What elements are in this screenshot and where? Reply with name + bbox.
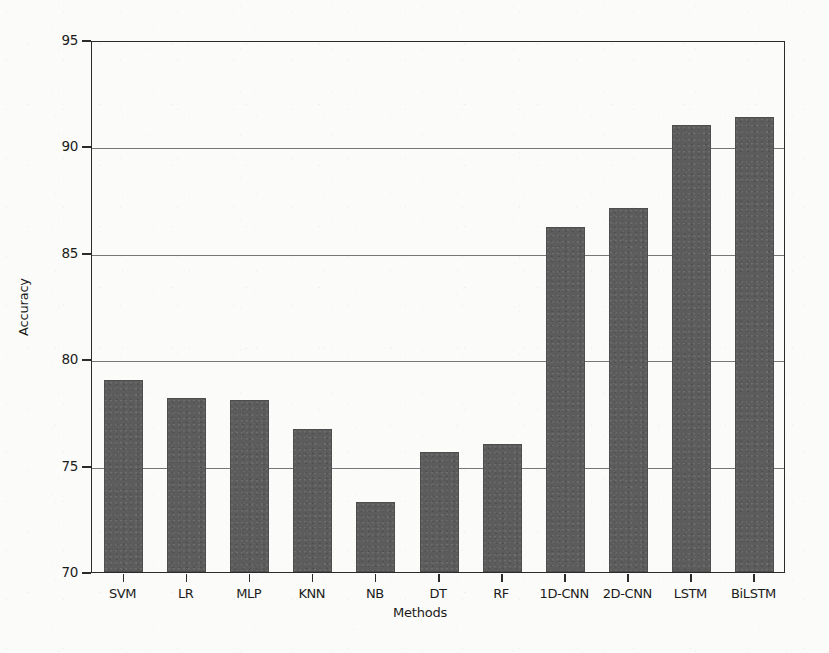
x-tick-label: NB bbox=[366, 586, 384, 601]
y-tick-label: 95 bbox=[52, 32, 78, 48]
x-tick-mark bbox=[627, 574, 629, 582]
y-tick-mark bbox=[82, 572, 91, 574]
x-tick-mark bbox=[438, 574, 440, 582]
y-axis-title: Accuracy bbox=[16, 278, 31, 336]
bar bbox=[546, 227, 585, 572]
y-tick-mark bbox=[82, 40, 91, 42]
x-tick-mark bbox=[501, 574, 503, 582]
x-tick-label: LR bbox=[178, 586, 193, 601]
y-tick-label: 80 bbox=[52, 351, 78, 367]
x-tick-mark bbox=[186, 574, 188, 582]
x-tick-mark bbox=[375, 574, 377, 582]
x-tick-label: 1D-CNN bbox=[540, 586, 589, 601]
x-tick-mark bbox=[249, 574, 251, 582]
x-axis-title: Methods bbox=[393, 605, 447, 620]
bar bbox=[167, 398, 206, 572]
chart-page: Accuracy Methods 707580859095SVMLRMLPKNN… bbox=[0, 0, 829, 653]
x-tick-mark bbox=[690, 574, 692, 582]
y-tick-label: 75 bbox=[52, 458, 78, 474]
x-tick-label: MLP bbox=[236, 586, 261, 601]
y-tick-label: 70 bbox=[52, 564, 78, 580]
x-tick-label: KNN bbox=[298, 586, 325, 601]
bar bbox=[735, 117, 774, 572]
bar bbox=[230, 400, 269, 572]
x-tick-mark bbox=[123, 574, 125, 582]
bar bbox=[293, 429, 332, 572]
y-tick-mark bbox=[82, 253, 91, 255]
bar bbox=[356, 502, 395, 572]
plot-area bbox=[91, 41, 785, 573]
y-tick-label: 85 bbox=[52, 245, 78, 261]
bar bbox=[104, 380, 143, 572]
y-tick-mark bbox=[82, 359, 91, 361]
x-tick-label: BiLSTM bbox=[731, 586, 776, 601]
x-tick-label: SVM bbox=[109, 586, 136, 601]
x-tick-label: LSTM bbox=[674, 586, 707, 601]
x-tick-label: RF bbox=[493, 586, 509, 601]
x-tick-label: 2D-CNN bbox=[603, 586, 652, 601]
bar bbox=[483, 444, 522, 572]
y-tick-mark bbox=[82, 466, 91, 468]
x-tick-mark bbox=[753, 574, 755, 582]
y-tick-mark bbox=[82, 146, 91, 148]
x-tick-label: DT bbox=[429, 586, 446, 601]
x-tick-mark bbox=[564, 574, 566, 582]
bar bbox=[420, 452, 459, 572]
y-tick-label: 90 bbox=[52, 138, 78, 154]
x-tick-mark bbox=[312, 574, 314, 582]
bar bbox=[609, 208, 648, 572]
bar bbox=[672, 125, 711, 572]
